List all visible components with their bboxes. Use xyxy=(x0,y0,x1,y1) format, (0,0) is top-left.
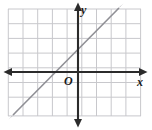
x-axis-label: x xyxy=(136,75,143,89)
y-axis: y xyxy=(74,3,87,128)
plotted-line-series xyxy=(9,4,124,120)
y-axis-label: y xyxy=(79,3,87,17)
origin-label: O xyxy=(64,74,73,88)
coordinate-plane-svg: x y O xyxy=(0,0,152,130)
coordinate-plane-figure: x y O xyxy=(0,0,152,130)
y-axis-arrow-down xyxy=(74,119,82,128)
x-axis-arrow-left xyxy=(4,68,13,76)
